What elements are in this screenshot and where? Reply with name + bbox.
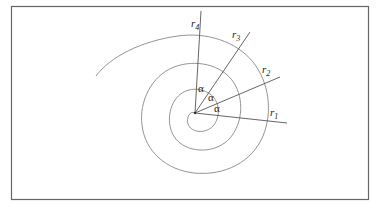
angle-label-1: α <box>214 102 220 114</box>
label-r3: r3 <box>232 28 240 43</box>
spiral-center <box>194 112 196 114</box>
angle-label-2: α <box>208 91 214 103</box>
label-r1: r1 <box>270 106 278 121</box>
spiral-diagram: r1 r2 r3 r4 α α α <box>0 0 376 211</box>
label-r2: r2 <box>262 63 270 78</box>
radius-line-r3 <box>195 32 250 113</box>
angle-label-3: α <box>198 82 204 94</box>
spiral-curve <box>96 35 268 173</box>
label-r4: r4 <box>191 17 199 32</box>
